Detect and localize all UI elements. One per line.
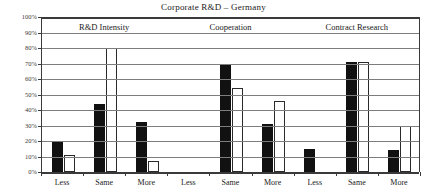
gridline — [42, 172, 419, 174]
x-axis-tick-label: Less — [167, 178, 209, 187]
x-axis-tick-mark — [252, 172, 253, 176]
gridline — [42, 33, 419, 34]
y-axis-tick-label: 50% — [3, 92, 37, 99]
x-axis-tick-mark — [167, 172, 168, 176]
bar-light — [64, 155, 75, 172]
x-axis-tick-mark — [83, 172, 84, 176]
bar-light — [400, 126, 411, 173]
x-axis-tick-label: More — [378, 178, 420, 187]
bar-dark — [94, 104, 105, 172]
y-axis-tick-mark — [38, 64, 42, 65]
x-axis-tick-mark — [336, 172, 337, 176]
y-axis-tick-mark — [38, 79, 42, 80]
x-axis-tick-mark — [420, 172, 421, 176]
x-axis-tick-label: Same — [83, 178, 125, 187]
group-label-3: Contract Research — [294, 22, 420, 32]
x-axis-tick-label: Same — [209, 178, 251, 187]
bar-dark — [304, 149, 315, 172]
y-axis-tick-label: 0% — [3, 169, 37, 176]
bar-dark — [388, 150, 399, 172]
x-axis-tick-mark — [209, 172, 210, 176]
plot-area — [41, 17, 420, 172]
y-axis-tick-mark — [38, 110, 42, 111]
group-label-1: R&D Intensity — [41, 22, 167, 32]
gridline — [42, 126, 419, 127]
y-axis-tick-mark — [38, 33, 42, 34]
y-axis-tick-label: 20% — [3, 138, 37, 145]
gridline — [42, 48, 419, 49]
x-axis-tick-label: Less — [41, 178, 83, 187]
x-axis-tick-mark — [41, 172, 42, 176]
y-axis-tick-label: 100% — [3, 14, 37, 21]
y-axis-tick-mark — [38, 157, 42, 158]
bar-dark — [262, 124, 273, 172]
bar-light — [232, 88, 243, 172]
gridline — [42, 141, 419, 142]
y-axis-tick-mark — [38, 141, 42, 142]
x-axis-tick-label: Less — [294, 178, 336, 187]
y-axis-tick-mark — [38, 48, 42, 49]
chart-title: Corporate R&D – Germany — [0, 2, 427, 12]
y-axis-tick-mark — [38, 95, 42, 96]
bar-dark — [136, 122, 147, 172]
y-axis-tick-label: 40% — [3, 107, 37, 114]
y-axis-tick-label: 80% — [3, 45, 37, 52]
chart-figure: Corporate R&D – Germany 0%10%20%30%40%50… — [0, 0, 427, 196]
y-axis-tick-label: 30% — [3, 123, 37, 130]
gridline — [42, 64, 419, 65]
gridline — [42, 157, 419, 158]
gridline — [42, 110, 419, 111]
bar-light — [148, 161, 159, 172]
x-axis-tick-mark — [378, 172, 379, 176]
y-axis-tick-label: 10% — [3, 154, 37, 161]
x-axis-tick-mark — [125, 172, 126, 176]
group-label-2: Cooperation — [167, 22, 293, 32]
y-axis-tick-mark — [38, 17, 42, 18]
x-axis-tick-label: More — [252, 178, 294, 187]
gridline — [42, 79, 419, 80]
bar-light — [274, 101, 285, 172]
gridline — [42, 17, 419, 19]
y-axis-tick-mark — [38, 126, 42, 127]
y-axis-tick-label: 90% — [3, 30, 37, 37]
x-axis-tick-label: Same — [336, 178, 378, 187]
y-axis-tick-label: 60% — [3, 76, 37, 83]
x-axis-tick-label: More — [125, 178, 167, 187]
gridline — [42, 95, 419, 96]
y-axis-tick-label: 70% — [3, 61, 37, 68]
x-axis-tick-mark — [294, 172, 295, 176]
